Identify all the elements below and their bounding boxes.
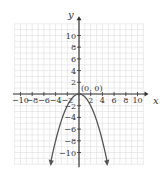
- y-tick-label: −10: [59, 149, 76, 158]
- x-tick-label: −8: [26, 96, 38, 105]
- x-tick-label: 6: [112, 96, 117, 105]
- y-tick-label: 6: [71, 55, 76, 64]
- y-tick-label: −8: [64, 137, 76, 146]
- y-tick-label: 2: [71, 78, 76, 87]
- x-axis-label: x: [153, 95, 159, 106]
- x-tick-label: −4: [50, 96, 62, 105]
- x-tick-label: −6: [38, 96, 50, 105]
- x-tick-label: 4: [100, 96, 105, 105]
- y-tick-label: −6: [64, 125, 76, 134]
- y-tick-label: 8: [71, 43, 76, 52]
- vertex-annotation: (0, 0): [81, 84, 103, 93]
- parabola-graph: −10−8−6−4−2246810108642−2−4−6−8−10 x y (…: [0, 0, 168, 170]
- y-tick-label: 10: [66, 32, 76, 41]
- y-axis-label: y: [67, 9, 74, 20]
- x-tick-label: 8: [123, 96, 128, 105]
- y-tick-label: 4: [71, 67, 76, 76]
- x-tick-label: 10: [132, 96, 142, 105]
- y-tick-label: −4: [64, 113, 76, 122]
